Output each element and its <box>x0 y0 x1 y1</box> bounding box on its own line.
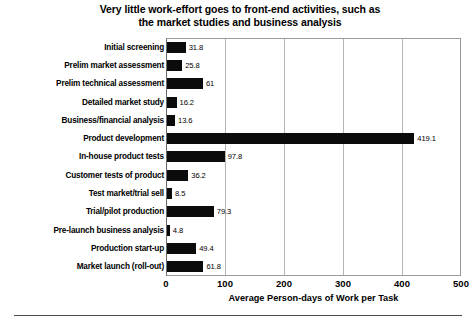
bar-row: Pre-launch business analysis4.8 <box>0 221 476 239</box>
bar-group: 8.5 <box>167 184 185 202</box>
x-tick-label: 100 <box>217 278 233 289</box>
bar-group: 49.4 <box>167 239 214 257</box>
chart-title-line-1: Very little work-effort goes to front-en… <box>60 3 420 16</box>
bar-row: Market launch (roll-out)61.8 <box>0 258 476 276</box>
category-label: Production start-up <box>0 244 164 253</box>
bar <box>167 42 186 53</box>
bar-row: Prelim technical assessment61 <box>0 75 476 93</box>
category-label: Test market/trial sell <box>0 189 164 198</box>
bar-row: Prelim market assessment25.8 <box>0 56 476 74</box>
bar-group: 36.2 <box>167 166 206 184</box>
bar-value-label: 61.8 <box>206 262 220 271</box>
category-label: Market launch (roll-out) <box>0 262 164 271</box>
bar-group: 419.1 <box>167 130 436 148</box>
bar <box>167 261 203 272</box>
bar-group: 31.8 <box>167 38 203 56</box>
bar-value-label: 16.2 <box>180 98 194 107</box>
category-label: Trial/pilot production <box>0 207 164 216</box>
bar-row: Detailed market study16.2 <box>0 93 476 111</box>
bar-value-label: 31.8 <box>189 43 203 52</box>
bar <box>167 60 182 71</box>
bar-value-label: 13.6 <box>178 116 192 125</box>
bar <box>167 97 177 108</box>
category-label: Detailed market study <box>0 98 164 107</box>
bar-row: In-house product tests97.8 <box>0 148 476 166</box>
bar-group: 97.8 <box>167 148 242 166</box>
bar-row: Production start-up49.4 <box>0 239 476 257</box>
bar <box>167 206 214 217</box>
bar-value-label: 49.4 <box>199 244 213 253</box>
category-label: Initial screening <box>0 43 164 52</box>
bar-value-label: 97.8 <box>228 152 242 161</box>
bar <box>167 151 225 162</box>
x-axis-ticks: 0100200300400500 <box>0 278 476 294</box>
category-label: In-house product tests <box>0 152 164 161</box>
x-axis-label: Average Person-days of Work per Task <box>166 293 461 303</box>
bar <box>167 188 172 199</box>
category-label: Product development <box>0 134 164 143</box>
bar <box>167 243 196 254</box>
bar <box>167 78 203 89</box>
category-label: Pre-launch business analysis <box>0 226 164 235</box>
bar-value-label: 36.2 <box>191 171 205 180</box>
category-label: Prelim technical assessment <box>0 79 164 88</box>
bar-row: Trial/pilot production79.3 <box>0 203 476 221</box>
bar <box>167 115 175 126</box>
chart-title: Very little work-effort goes to front-en… <box>60 3 420 29</box>
x-tick-label: 400 <box>394 278 410 289</box>
bottom-divider <box>14 315 462 316</box>
bar-value-label: 79.3 <box>217 207 231 216</box>
bar-value-label: 61 <box>206 79 214 88</box>
bar-rows: Initial screening31.8Prelim market asses… <box>0 38 476 276</box>
bar-group: 16.2 <box>167 93 194 111</box>
x-tick-label: 500 <box>453 278 469 289</box>
bar-group: 25.8 <box>167 56 200 74</box>
bar-group: 61 <box>167 75 214 93</box>
bar <box>167 133 414 144</box>
category-label: Business/financial analysis <box>0 116 164 125</box>
x-tick-label: 0 <box>163 278 168 289</box>
category-label: Customer tests of product <box>0 171 164 180</box>
bar-row: Product development419.1 <box>0 130 476 148</box>
bar-row: Initial screening31.8 <box>0 38 476 56</box>
bar-row: Test market/trial sell8.5 <box>0 184 476 202</box>
bar-row: Customer tests of product36.2 <box>0 166 476 184</box>
x-tick-label: 200 <box>276 278 292 289</box>
bar-value-label: 4.8 <box>173 226 183 235</box>
bar-group: 4.8 <box>167 221 183 239</box>
bar-group: 79.3 <box>167 203 231 221</box>
bar <box>167 225 170 236</box>
bar-group: 13.6 <box>167 111 192 129</box>
bar-value-label: 25.8 <box>185 61 199 70</box>
bar-group: 61.8 <box>167 258 221 276</box>
category-label: Prelim market assessment <box>0 61 164 70</box>
x-tick-label: 300 <box>335 278 351 289</box>
bar-value-label: 8.5 <box>175 189 185 198</box>
chart-title-line-2: the market studies and business analysis <box>60 16 420 29</box>
bar <box>167 170 188 181</box>
bar-value-label: 419.1 <box>417 134 436 143</box>
bar-row: Business/financial analysis13.6 <box>0 111 476 129</box>
